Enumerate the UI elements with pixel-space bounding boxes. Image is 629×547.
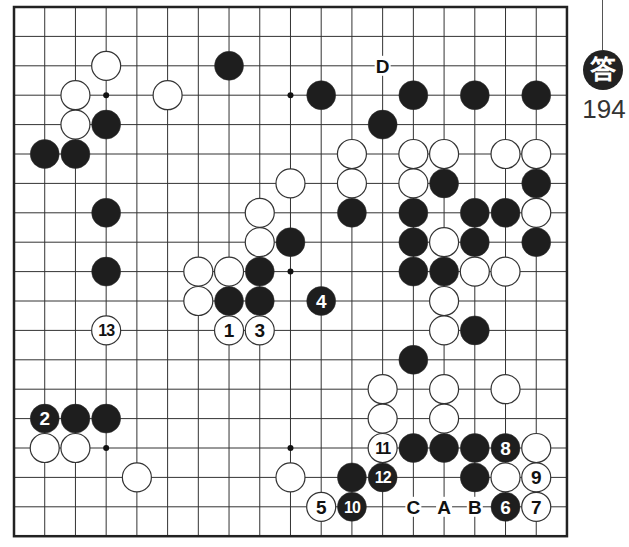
black-stone[interactable] xyxy=(430,434,459,463)
black-stone[interactable] xyxy=(92,198,121,227)
white-stone[interactable] xyxy=(522,140,551,169)
move-number-label: 9 xyxy=(531,467,542,488)
black-stone[interactable] xyxy=(460,198,489,227)
black-stone[interactable]: 12 xyxy=(368,463,397,492)
white-stone[interactable] xyxy=(368,375,397,404)
black-stone[interactable] xyxy=(92,404,121,433)
white-stone[interactable] xyxy=(245,228,274,257)
move-number-label: 10 xyxy=(344,499,361,516)
white-stone[interactable] xyxy=(92,51,121,80)
black-stone[interactable] xyxy=(245,287,274,316)
black-stone[interactable] xyxy=(30,140,59,169)
white-stone[interactable] xyxy=(430,228,459,257)
point-marker-d[interactable]: D xyxy=(375,56,391,77)
white-stone[interactable] xyxy=(430,404,459,433)
white-stone[interactable] xyxy=(245,198,274,227)
black-stone[interactable] xyxy=(245,257,274,286)
hoshi-point xyxy=(287,269,293,275)
white-stone[interactable] xyxy=(430,375,459,404)
white-stone[interactable] xyxy=(399,169,428,198)
black-stone[interactable] xyxy=(460,228,489,257)
black-stone[interactable]: 2 xyxy=(30,404,59,433)
black-stone[interactable] xyxy=(522,81,551,110)
black-stone[interactable] xyxy=(368,110,397,139)
white-stone[interactable] xyxy=(276,463,305,492)
black-stone[interactable]: 8 xyxy=(491,434,520,463)
white-stone[interactable] xyxy=(399,140,428,169)
white-stone[interactable] xyxy=(61,434,90,463)
black-stone[interactable] xyxy=(399,228,428,257)
white-stone[interactable] xyxy=(430,316,459,345)
white-stone[interactable] xyxy=(491,375,520,404)
black-stone[interactable] xyxy=(399,81,428,110)
white-stone[interactable] xyxy=(337,140,366,169)
white-stone[interactable] xyxy=(491,257,520,286)
go-board[interactable]: DCAB41313211812951067 xyxy=(0,0,629,547)
svg-text:A: A xyxy=(437,497,451,518)
white-stone[interactable] xyxy=(215,257,244,286)
black-stone[interactable] xyxy=(399,434,428,463)
black-stone[interactable] xyxy=(61,404,90,433)
black-stone[interactable] xyxy=(460,434,489,463)
black-stone[interactable] xyxy=(215,287,244,316)
black-stone[interactable] xyxy=(215,51,244,80)
black-stone[interactable] xyxy=(399,345,428,374)
white-stone[interactable] xyxy=(276,169,305,198)
black-stone[interactable] xyxy=(491,198,520,227)
move-number-label: 11 xyxy=(375,440,391,457)
hoshi-point xyxy=(287,445,293,451)
black-stone[interactable] xyxy=(399,198,428,227)
black-stone[interactable] xyxy=(61,140,90,169)
black-stone[interactable] xyxy=(430,169,459,198)
svg-text:B: B xyxy=(468,497,482,518)
white-stone[interactable]: 3 xyxy=(245,316,274,345)
white-stone[interactable]: 1 xyxy=(215,316,244,345)
white-stone[interactable] xyxy=(337,169,366,198)
white-stone[interactable] xyxy=(184,287,213,316)
white-stone[interactable] xyxy=(522,198,551,227)
hoshi-point xyxy=(103,92,109,98)
white-stone[interactable] xyxy=(491,140,520,169)
black-stone[interactable] xyxy=(92,110,121,139)
black-stone[interactable]: 4 xyxy=(307,287,336,316)
point-marker-c[interactable]: C xyxy=(405,497,421,518)
black-stone[interactable]: 10 xyxy=(337,492,366,521)
white-stone[interactable]: 9 xyxy=(522,463,551,492)
black-stone[interactable] xyxy=(337,198,366,227)
black-stone[interactable] xyxy=(92,257,121,286)
white-stone[interactable]: 5 xyxy=(307,492,336,521)
black-stone[interactable] xyxy=(307,81,336,110)
white-stone[interactable] xyxy=(184,257,213,286)
white-stone[interactable] xyxy=(491,463,520,492)
white-stone[interactable] xyxy=(522,434,551,463)
black-stone[interactable] xyxy=(522,228,551,257)
white-stone[interactable]: 11 xyxy=(368,434,397,463)
white-stone[interactable]: 7 xyxy=(522,492,551,521)
black-stone[interactable] xyxy=(460,81,489,110)
black-stone[interactable] xyxy=(522,169,551,198)
black-stone[interactable] xyxy=(460,316,489,345)
white-stone[interactable]: 13 xyxy=(92,316,121,345)
white-stone[interactable] xyxy=(61,81,90,110)
svg-text:C: C xyxy=(406,497,420,518)
white-stone[interactable] xyxy=(430,140,459,169)
white-stone[interactable] xyxy=(153,81,182,110)
black-stone[interactable] xyxy=(399,257,428,286)
answer-connector-line xyxy=(602,0,603,50)
black-stone[interactable] xyxy=(430,257,459,286)
black-stone[interactable]: 6 xyxy=(491,492,520,521)
point-marker-a[interactable]: A xyxy=(436,497,452,518)
white-stone[interactable] xyxy=(368,404,397,433)
point-marker-b[interactable]: B xyxy=(467,497,483,518)
black-stone[interactable] xyxy=(337,463,366,492)
white-stone[interactable] xyxy=(460,257,489,286)
move-number-label: 1 xyxy=(224,320,235,341)
white-stone[interactable] xyxy=(30,434,59,463)
black-stone[interactable] xyxy=(276,228,305,257)
white-stone[interactable] xyxy=(430,287,459,316)
black-stone[interactable] xyxy=(460,463,489,492)
hoshi-point xyxy=(103,445,109,451)
white-stone[interactable] xyxy=(61,110,90,139)
answer-badge-icon: 答 xyxy=(583,50,623,90)
white-stone[interactable] xyxy=(122,463,151,492)
